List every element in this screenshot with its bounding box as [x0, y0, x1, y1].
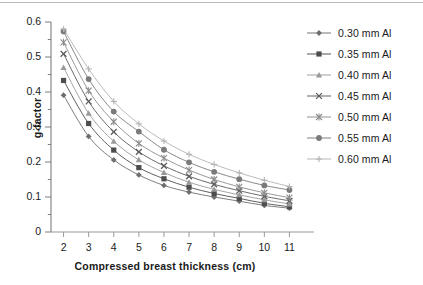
legend-item-7[interactable]: 0.60 mm Al [305, 148, 423, 169]
legend-square-icon [305, 47, 333, 61]
legend-star-icon [305, 110, 333, 124]
chart-figure: g-factor Compressed breast thickness (cm… [0, 0, 423, 285]
data-point-marker [86, 66, 92, 72]
data-point-marker [60, 64, 66, 70]
legend-triangle-icon [305, 68, 333, 82]
data-point-marker [61, 51, 67, 57]
data-point-marker [86, 87, 92, 94]
data-point-marker [316, 135, 322, 141]
series-line [64, 31, 290, 190]
data-point-marker [61, 78, 66, 83]
series-2 [61, 78, 292, 210]
data-point-marker [161, 169, 167, 175]
data-point-marker [136, 140, 142, 147]
legend-x-icon [305, 89, 333, 103]
data-point-marker [161, 147, 167, 153]
series-5 [61, 39, 293, 201]
legend-item-5[interactable]: 0.50 mm Al [305, 106, 423, 127]
chart-legend: 0.30 mm Al0.35 mm Al0.40 mm Al0.45 mm Al… [305, 22, 423, 169]
data-point-marker [86, 99, 92, 105]
legend-label: 0.60 mm Al [333, 153, 392, 165]
data-point-marker [161, 176, 166, 181]
y-tick-label: 0.5 [11, 50, 41, 62]
data-point-marker [136, 165, 141, 170]
x-tick-label: 8 [203, 241, 225, 253]
data-point-marker [161, 138, 167, 144]
y-tick-label: 0.2 [11, 155, 41, 167]
data-point-marker [111, 118, 117, 125]
data-point-marker [136, 129, 142, 135]
data-point-marker [161, 163, 167, 169]
data-point-marker [186, 159, 192, 165]
data-point-marker [236, 176, 242, 182]
series-4 [61, 51, 293, 204]
data-point-marker [211, 176, 217, 183]
data-point-marker [316, 30, 322, 36]
data-point-marker [261, 177, 267, 183]
data-point-marker [186, 173, 192, 179]
data-point-marker [86, 110, 92, 116]
x-axis-title: Compressed breast thickness (cm) [0, 260, 330, 272]
legend-label: 0.50 mm Al [333, 111, 392, 123]
data-point-marker [61, 39, 67, 46]
y-tick-label: 0.4 [11, 85, 41, 97]
data-point-marker [186, 185, 191, 190]
x-tick-label: 6 [153, 241, 175, 253]
legend-label: 0.30 mm Al [333, 27, 392, 39]
data-point-marker [186, 151, 192, 157]
legend-label: 0.45 mm Al [333, 90, 392, 102]
data-point-marker [211, 169, 217, 175]
series-7 [60, 26, 292, 190]
data-point-marker [111, 129, 117, 135]
data-point-marker [316, 155, 322, 161]
data-point-marker [136, 149, 142, 155]
legend-label: 0.40 mm Al [333, 69, 392, 81]
series-1 [61, 92, 293, 211]
y-tick-label: 0.6 [11, 15, 41, 27]
series-line [64, 54, 290, 201]
x-tick-label: 3 [78, 241, 100, 253]
data-point-marker [136, 157, 142, 163]
y-tick-label: 0 [11, 225, 41, 237]
series-line [64, 29, 290, 187]
data-point-marker [211, 161, 217, 167]
data-point-marker [261, 183, 267, 189]
series-line [64, 42, 290, 197]
x-tick-label: 10 [253, 241, 275, 253]
data-point-marker [86, 121, 91, 126]
legend-label: 0.35 mm Al [333, 48, 392, 60]
y-tick-label: 0.3 [11, 120, 41, 132]
legend-label: 0.55 mm Al [333, 132, 392, 144]
legend-item-3[interactable]: 0.40 mm Al [305, 64, 423, 85]
x-tick-label: 4 [103, 241, 125, 253]
data-point-marker [86, 76, 92, 82]
data-point-marker [111, 148, 116, 153]
x-tick-label: 11 [278, 241, 300, 253]
data-point-marker [236, 183, 242, 190]
data-point-marker [161, 155, 167, 162]
legend-diamond-icon [305, 26, 333, 40]
x-tick-label: 9 [228, 241, 250, 253]
series-3 [60, 64, 292, 206]
data-point-marker [186, 189, 192, 195]
x-tick-label: 5 [128, 241, 150, 253]
data-point-marker [236, 170, 242, 176]
data-point-marker [136, 172, 142, 178]
x-tick-label: 7 [178, 241, 200, 253]
data-point-marker [316, 51, 321, 56]
x-tick-label: 2 [53, 241, 75, 253]
legend-item-6[interactable]: 0.55 mm Al [305, 127, 423, 148]
data-point-marker [186, 167, 192, 174]
y-tick-label: 0.1 [11, 190, 41, 202]
legend-plus-icon [305, 152, 333, 166]
legend-item-2[interactable]: 0.35 mm Al [305, 43, 423, 64]
data-point-marker [161, 183, 167, 189]
data-point-marker [111, 109, 117, 115]
legend-circle-icon [305, 131, 333, 145]
data-point-marker [61, 92, 67, 98]
legend-item-4[interactable]: 0.45 mm Al [305, 85, 423, 106]
series-line [64, 80, 290, 206]
legend-item-1[interactable]: 0.30 mm Al [305, 22, 423, 43]
